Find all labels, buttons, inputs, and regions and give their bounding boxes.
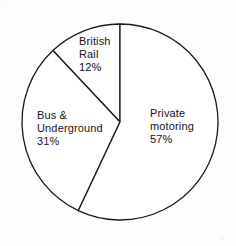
pie-label-bus-underground-value: 31% [37,135,103,148]
pie-label-british-rail: British Rail 12% [79,35,111,74]
pie-label-private-motoring-line1: Private [150,107,194,120]
pie-label-british-rail-value: 12% [79,61,111,74]
pie-label-private-motoring: Private motoring 57% [150,107,194,146]
pie-label-british-rail-line2: Rail [79,48,111,61]
pie-chart-graphic [0,0,236,246]
pie-label-british-rail-line1: British [79,35,111,48]
pie-label-private-motoring-value: 57% [150,133,194,146]
pie-label-bus-underground: Bus & Underground 31% [37,109,103,148]
pie-label-private-motoring-line2: motoring [150,120,194,133]
pie-chart-figure: British Rail 12% Bus & Underground 31% P… [0,0,236,246]
pie-label-bus-underground-line2: Underground [37,122,103,135]
pie-label-bus-underground-line1: Bus & [37,109,103,122]
